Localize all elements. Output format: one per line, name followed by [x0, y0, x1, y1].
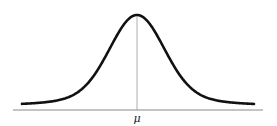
- bell-curve: [22, 15, 254, 104]
- normal-distribution-diagram: μ: [0, 0, 277, 126]
- mean-label: μ: [133, 112, 140, 125]
